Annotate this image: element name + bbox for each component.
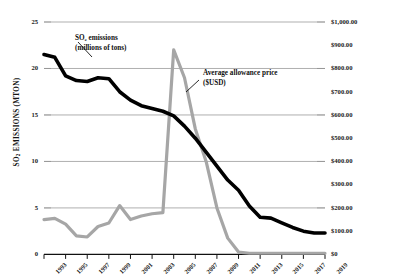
right-axis-tick-label: $800.00: [331, 64, 377, 71]
right-axis-tick-label: $700.00: [331, 88, 377, 95]
right-axis-tick-label: $400.00: [331, 157, 377, 164]
right-axis-tick-label: $900.00: [331, 41, 377, 48]
left-axis-tick-label: 20: [12, 64, 38, 71]
right-axis-tick-label: $200.00: [331, 204, 377, 211]
right-axis-ticks: [317, 22, 325, 254]
left-axis-tick-label: 5: [12, 204, 38, 211]
right-axis-tick-label: $1,000.00: [331, 18, 377, 25]
right-axis-tick-label: $0: [331, 250, 377, 257]
right-axis-tick-label: $300.00: [331, 180, 377, 187]
price-annotation-leader: [186, 80, 199, 92]
price-annotation: Average allowance price ($USD): [203, 68, 278, 89]
right-axis-tick-label: $100.00: [331, 227, 377, 234]
left-axis-tick-label: 10: [12, 157, 38, 164]
price-annotation-line1: Average allowance price: [203, 68, 278, 78]
left-axis-tick-label: 0: [12, 250, 38, 257]
chart-container: SO2 EMISSIONS (MTON) AVERAGE WINNING SO2…: [0, 0, 403, 279]
left-axis-tick-label: 25: [12, 18, 38, 25]
left-axis-tick-label: 15: [12, 111, 38, 118]
left-axis-ticks: [44, 22, 51, 208]
right-axis-tick-label: $600.00: [331, 111, 377, 118]
right-axis-tick-label: $500.00: [331, 134, 377, 141]
price-annotation-line2: ($USD): [203, 78, 278, 88]
emissions-annotation-line1: SO₂ emissions: [75, 33, 127, 43]
emissions-annotation: SO₂ emissions (millions of tons): [75, 33, 127, 54]
emissions-annotation-line2: (millions of tons): [75, 43, 127, 53]
